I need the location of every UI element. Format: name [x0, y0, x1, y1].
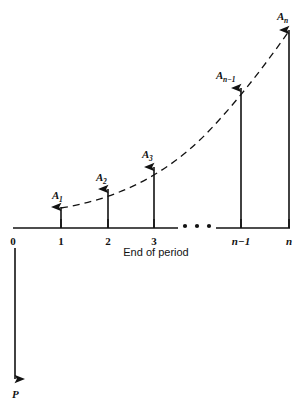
label-p: P [12, 388, 19, 400]
upward-arrow-labels: A 1 A 2 A 3 A n−1 A n [51, 10, 288, 204]
label-a3-subscript: 3 [148, 154, 153, 163]
axis-caption: End of period [123, 246, 188, 258]
label-a-n: A n [276, 10, 288, 25]
label-a2: A 2 [95, 171, 107, 186]
label-a-n-minus-1: A n−1 [215, 69, 235, 84]
label-a1-subscript: 1 [59, 195, 63, 204]
label-a-n-minus-1-subscript: n−1 [223, 75, 235, 84]
ellipsis-dot [195, 224, 199, 228]
tick-label-0: 0 [10, 235, 16, 247]
label-a3: A 3 [141, 148, 153, 163]
label-a-n-subscript: n [284, 16, 288, 25]
ellipsis-dot [183, 224, 187, 228]
tick-label-1: 1 [58, 235, 64, 247]
tick-label-n-minus-1: n−1 [232, 235, 250, 247]
label-a2-subscript: 2 [102, 177, 107, 186]
upward-arrows [61, 30, 289, 228]
axis-break-ellipsis [183, 224, 211, 228]
tick-label-2: 2 [105, 235, 111, 247]
downward-arrow-group: P [12, 248, 19, 400]
axis-ticks [61, 219, 289, 228]
diagram-canvas: 0 1 2 3 n−1 n End of period A 1 A [0, 0, 302, 410]
tick-label-n: n [286, 235, 292, 247]
label-a1: A 1 [51, 189, 63, 204]
ellipsis-dot [207, 224, 211, 228]
cash-flow-diagram-figure: 0 1 2 3 n−1 n End of period A 1 A [0, 0, 302, 410]
